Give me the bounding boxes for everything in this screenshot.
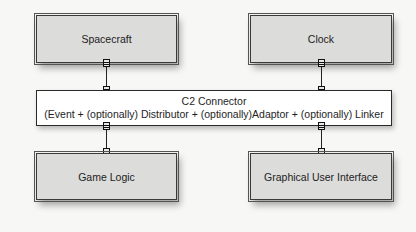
- component-label: Clock: [308, 33, 334, 45]
- port-icon: [318, 59, 325, 67]
- component-label: Game Logic: [78, 171, 135, 183]
- component-clock: Clock: [250, 15, 392, 63]
- component-spacecraft: Spacecraft: [36, 15, 177, 63]
- component-game-logic: Game Logic: [36, 153, 177, 200]
- c2-connector: C2 Connector (Event + (optionally) Distr…: [36, 90, 392, 126]
- connector-title: C2 Connector: [182, 95, 247, 108]
- connector-subtitle: (Event + (optionally) Distributor + (opt…: [44, 108, 383, 121]
- port-icon: [103, 122, 110, 130]
- port-icon: [103, 59, 110, 67]
- port-icon: [318, 122, 325, 130]
- component-label: Graphical User Interface: [264, 171, 378, 183]
- component-gui: Graphical User Interface: [250, 153, 392, 200]
- component-label: Spacecraft: [81, 33, 131, 45]
